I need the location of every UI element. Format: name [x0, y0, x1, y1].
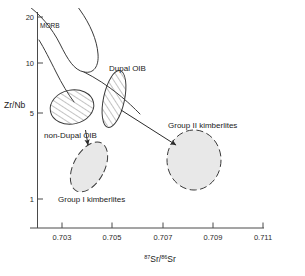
x-tick-label-0705: 0.705 — [103, 233, 122, 242]
field-dupal-oib-ellipse — [98, 68, 131, 129]
x-axis-title: 87Sr/86Sr — [144, 254, 176, 265]
x-tick-label-0703: 0.703 — [53, 233, 72, 242]
sr-zr-nb-scatter-chart: 20 10 5 1 Zr/Nb 0.703 0.705 0.707 0.709 … — [0, 0, 305, 276]
field-group-i-ellipse — [63, 136, 116, 198]
chart-container: 20 10 5 1 Zr/Nb 0.703 0.705 0.707 0.709 … — [0, 0, 305, 276]
x-tick-label-0707: 0.707 — [154, 233, 173, 242]
x-tick-label-0709: 0.709 — [204, 233, 223, 242]
x-tick-label-0711: 0.711 — [254, 233, 272, 242]
y-axis-title: Zr/Nb — [4, 100, 26, 110]
y-tick-label-10: 10 — [26, 59, 34, 68]
field-non-dupal-oib[interactable] — [47, 86, 97, 128]
field-label-non-dupal-oib: non-Dupal OIB — [44, 131, 97, 140]
field-label-morb: MORB — [40, 22, 60, 29]
field-non-dupal-oib-ellipse — [47, 86, 97, 128]
field-group-ii-kimberlites[interactable] — [167, 130, 221, 190]
x-axis-title-base-sr2: Sr — [167, 254, 176, 264]
field-label-group-ii-kimberlites: Group II kimberlites — [168, 121, 237, 130]
y-axis: 20 10 5 1 Zr/Nb — [4, 12, 43, 228]
field-group-i-kimberlites[interactable] — [63, 136, 116, 198]
field-dupal-oib[interactable] — [98, 68, 131, 129]
field-label-group-i-kimberlites: Group I kimberlites — [58, 195, 125, 204]
y-tick-label-1: 1 — [30, 195, 34, 204]
x-axis-title-base-sr1: Sr/ — [150, 254, 162, 264]
field-label-dupal-oib: Dupal OIB — [109, 64, 146, 73]
x-axis: 0.703 0.705 0.707 0.709 0.711 87Sr/86Sr — [30, 223, 272, 265]
y-tick-label-20: 20 — [26, 13, 34, 22]
plot-area: MORB non-Dupal OIB Dupal OIB Group I kim… — [26, 0, 237, 204]
y-tick-label-5: 5 — [30, 109, 34, 118]
field-morb-outline — [26, 0, 98, 72]
field-group-ii-ellipse — [167, 130, 221, 190]
